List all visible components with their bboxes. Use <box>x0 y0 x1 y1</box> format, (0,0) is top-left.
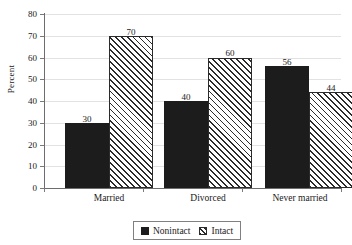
y-axis-line <box>44 13 45 189</box>
x-tick <box>143 188 144 192</box>
x-axis-label-divorced: Divorced <box>190 193 225 203</box>
bar-divorced-nonintact[interactable] <box>164 101 208 188</box>
legend-item-intact[interactable]: Intact <box>199 226 233 236</box>
y-tick-label: 60 <box>28 53 37 63</box>
x-axis-line <box>44 188 342 189</box>
bar-value-never-married-intact: 44 <box>327 83 336 93</box>
bar-value-married-intact: 70 <box>127 27 136 37</box>
y-tick-label: 20 <box>28 140 37 150</box>
legend-label-intact: Intact <box>211 226 233 236</box>
legend-swatch-intact-icon <box>199 227 207 235</box>
bar-chart: Percent 80 70 60 50 40 <box>0 0 352 245</box>
plot-area: 80 70 60 50 40 30 20 <box>44 14 341 188</box>
bar-never-married-nonintact[interactable] <box>265 66 309 188</box>
legend-label-nonintact: Nonintact <box>153 226 190 236</box>
y-tick-label: 0 <box>33 183 38 193</box>
bar-value-divorced-nonintact: 40 <box>182 92 191 102</box>
y-tick-label: 70 <box>28 31 37 41</box>
legend-item-nonintact[interactable]: Nonintact <box>141 226 190 236</box>
bar-value-never-married-nonintact: 56 <box>283 57 292 67</box>
bar-value-married-nonintact: 30 <box>83 114 92 124</box>
x-tick <box>44 188 45 192</box>
x-axis-label-never-married: Never married <box>272 193 327 203</box>
bar-married-intact[interactable] <box>109 36 153 188</box>
y-tick-label: 80 <box>28 9 37 19</box>
x-tick <box>341 188 342 192</box>
chart-legend: Nonintact Intact <box>133 221 241 240</box>
y-tick-label: 40 <box>28 96 37 106</box>
y-tick-label: 30 <box>28 118 37 128</box>
x-axis-label-married: Married <box>94 193 125 203</box>
legend-swatch-nonintact-icon <box>141 227 149 235</box>
bar-divorced-intact[interactable] <box>208 58 252 189</box>
bar-value-divorced-intact: 60 <box>226 48 235 58</box>
y-tick-label: 50 <box>28 74 37 84</box>
bar-never-married-intact[interactable] <box>309 92 352 188</box>
y-tick-label: 10 <box>28 161 37 171</box>
y-axis-title: Percent <box>6 49 16 109</box>
x-tick <box>242 188 243 192</box>
bar-married-nonintact[interactable] <box>65 123 109 188</box>
